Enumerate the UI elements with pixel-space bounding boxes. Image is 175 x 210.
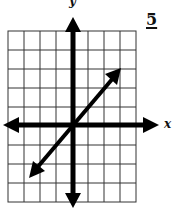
y-axis-line: [71, 28, 76, 196]
y-axis: [65, 17, 81, 208]
x-axis-arrow-right-icon: [143, 117, 159, 133]
x-axis-line: [14, 123, 148, 128]
graph-canvas: [0, 0, 175, 210]
y-axis-arrow-up-icon: [65, 17, 81, 32]
coordinate-graph: y x 5: [0, 0, 175, 210]
y-axis-label: y: [69, 0, 76, 7]
x-axis-arrow-left-icon: [3, 117, 19, 133]
x-axis-label: x: [164, 118, 171, 130]
y-axis-arrow-down-icon: [65, 193, 81, 208]
problem-number: 5: [146, 12, 157, 28]
